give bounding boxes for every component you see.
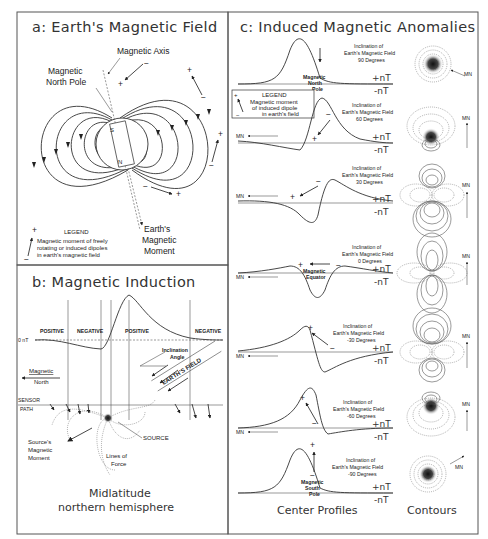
svg-text:northern hemisphere: northern hemisphere — [58, 501, 174, 514]
svg-text:MN: MN — [236, 353, 244, 359]
svg-text:Earth's Magnetic Field: Earth's Magnetic Field — [333, 330, 384, 336]
row-90: Magnetic Magnetic North Pole Inclination… — [238, 39, 472, 96]
svg-text:Source's: Source's — [28, 439, 51, 445]
svg-text:Pole: Pole — [309, 491, 320, 497]
svg-text:MN: MN — [236, 133, 244, 139]
svg-text:Magnetic: Magnetic — [142, 235, 177, 245]
row-neg60: − + MN Inclination of Earth's Magnetic F… — [236, 388, 470, 442]
svg-text:+: + — [310, 440, 315, 450]
svg-text:+nT: +nT — [372, 419, 391, 429]
svg-text:−: − — [312, 418, 317, 428]
svg-text:+: + — [312, 134, 317, 144]
svg-text:-nT: -nT — [374, 356, 389, 366]
svg-text:Earth's Magnetic Field: Earth's Magnetic Field — [344, 50, 395, 56]
svg-text:Magnetic moment of freely: Magnetic moment of freely — [37, 238, 108, 244]
svg-text:in earth's magnetic field: in earth's magnetic field — [37, 252, 100, 258]
svg-text:+: + — [290, 192, 295, 202]
svg-text:Magnetic: Magnetic — [29, 368, 53, 374]
svg-text:-nT: -nT — [374, 432, 389, 442]
svg-text:Midlatitude: Midlatitude — [89, 487, 151, 500]
svg-text:MN: MN — [455, 464, 463, 470]
svg-text:−: − — [336, 260, 341, 270]
svg-text:N: N — [118, 159, 122, 165]
svg-text:-nT: -nT — [374, 495, 389, 505]
svg-text:−: − — [209, 160, 214, 170]
panel-a: a: Earth's Magnetic Field Magnetic Axis … — [24, 19, 223, 264]
svg-text:-nT: -nT — [374, 86, 389, 96]
legend-title: LEGEND — [64, 229, 89, 235]
lines-of-force — [52, 400, 155, 475]
panel-b-title: b: Magnetic Induction — [32, 274, 196, 290]
footer-contours: Contours — [407, 504, 457, 517]
panel-b: b: Magnetic Induction 0 nT POSITIVE NEGA… — [18, 274, 223, 514]
svg-text:+: + — [234, 92, 238, 98]
svg-text:North: North — [34, 379, 49, 385]
svg-text:MN: MN — [464, 71, 472, 77]
svg-text:−: − — [24, 254, 29, 264]
svg-text:−: − — [143, 181, 148, 191]
svg-text:Moment: Moment — [144, 246, 175, 256]
svg-text:-nT: -nT — [374, 207, 389, 217]
svg-text:MN: MN — [462, 333, 470, 339]
svg-text:+: + — [218, 129, 223, 139]
svg-text:+: + — [187, 65, 192, 75]
svg-text:+nT: +nT — [372, 194, 391, 204]
svg-text:POSITIVE: POSITIVE — [125, 328, 149, 334]
panel-a-title: a: Earth's Magnetic Field — [32, 19, 217, 35]
svg-text:+nT: +nT — [372, 264, 391, 274]
svg-text:Inclination of: Inclination of — [352, 165, 382, 171]
svg-text:+nT: +nT — [372, 482, 391, 492]
svg-text:Moment: Moment — [28, 455, 50, 461]
svg-text:NEGATIVE: NEGATIVE — [77, 328, 104, 334]
footer-profiles: Center Profiles — [277, 504, 358, 517]
row-neg90: + − Magnetic South Pole Inclination of E… — [238, 440, 464, 505]
svg-text:-nT: -nT — [374, 145, 389, 155]
svg-text:−: − — [236, 112, 240, 118]
svg-text:Inclination: Inclination — [162, 347, 188, 353]
svg-text:Inclination of: Inclination of — [346, 457, 376, 463]
magnetic-axis-label: Magnetic Axis — [117, 46, 169, 56]
svg-text:Inclination of: Inclination of — [343, 399, 373, 405]
svg-text:PATH: PATH — [20, 406, 33, 412]
svg-text:MN: MN — [236, 193, 244, 199]
svg-text:MN: MN — [236, 429, 244, 435]
svg-text:+: + — [308, 323, 313, 333]
svg-text:60 Degrees: 60 Degrees — [356, 116, 383, 122]
svg-text:+nT: +nT — [372, 132, 391, 142]
svg-text:+: + — [300, 393, 305, 403]
svg-text:Angle: Angle — [170, 354, 185, 360]
svg-text:+nT: +nT — [372, 73, 391, 83]
panel-c: c: Induced Magnetic Anomalies Magnetic M… — [232, 19, 475, 517]
svg-text:SENSOR: SENSOR — [18, 397, 40, 403]
svg-text:NEGATIVE: NEGATIVE — [195, 328, 222, 334]
svg-text:S: S — [110, 127, 114, 133]
panel-c-title: c: Induced Magnetic Anomalies — [240, 19, 475, 35]
svg-text:-90 Degrees: -90 Degrees — [348, 471, 377, 477]
svg-text:0 nT: 0 nT — [18, 337, 29, 343]
svg-text:MN: MN — [462, 253, 470, 259]
svg-text:−: − — [201, 92, 206, 102]
svg-text:MN: MN — [462, 182, 470, 188]
svg-text:SOURCE: SOURCE — [143, 435, 169, 441]
svg-text:Magnetic: Magnetic — [28, 447, 52, 453]
svg-text:Earth's Magnetic Field: Earth's Magnetic Field — [332, 464, 383, 470]
svg-text:−: − — [326, 109, 331, 119]
svg-text:Earth's Magnetic Field: Earth's Magnetic Field — [342, 172, 393, 178]
svg-text:+: + — [176, 189, 181, 199]
svg-text:Inclination of: Inclination of — [354, 43, 384, 49]
row-30: − + MN Inclination of Earth's Magnetic F… — [236, 164, 470, 237]
svg-text:Equator: Equator — [306, 274, 326, 280]
svg-text:Lines of: Lines of — [106, 453, 127, 459]
svg-text:LEGEND: LEGEND — [262, 92, 287, 98]
svg-text:30 Degrees: 30 Degrees — [356, 179, 383, 185]
svg-text:Inclination of: Inclination of — [352, 102, 382, 108]
svg-text:+: + — [32, 225, 37, 235]
svg-text:rotating or induced dipoles: rotating or induced dipoles — [37, 245, 107, 251]
svg-text:+nT: +nT — [372, 343, 391, 353]
svg-text:−: − — [316, 176, 321, 186]
row-0: − + Magnetic Equator MN Inclination of E… — [236, 233, 470, 313]
svg-text:Earth's Magnetic Field: Earth's Magnetic Field — [342, 109, 393, 115]
svg-text:Force: Force — [111, 461, 127, 467]
svg-text:−: − — [144, 58, 149, 68]
svg-text:Earth's: Earth's — [144, 224, 170, 234]
